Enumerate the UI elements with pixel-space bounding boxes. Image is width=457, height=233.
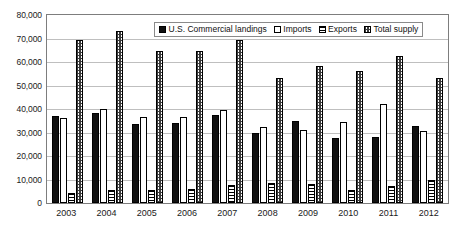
bar-2005-total-supply xyxy=(156,51,163,203)
x-axis-tick-label-2008: 2008 xyxy=(247,205,287,227)
bar-2011-imports xyxy=(380,104,387,203)
bar-2009-u-s-commercial-landings xyxy=(292,121,299,203)
bar-group-2005 xyxy=(127,15,167,203)
bar-2006-u-s-commercial-landings xyxy=(172,123,179,203)
y-axis-tick-label: 20,000 xyxy=(17,151,42,161)
legend-item-label: Total supply xyxy=(373,25,418,34)
bar-2006-imports xyxy=(180,117,187,203)
bar-2003-total-supply xyxy=(76,40,83,203)
bar-group-2011 xyxy=(368,15,408,203)
legend-item-u-s-commercial-landings[interactable]: U.S. Commercial landings xyxy=(159,25,267,34)
bar-group-2004 xyxy=(87,15,127,203)
bar-2008-total-supply xyxy=(276,78,283,203)
bars-layer xyxy=(47,15,448,203)
bar-2004-exports xyxy=(108,190,115,203)
bar-2003-imports xyxy=(60,118,67,203)
bar-2010-exports xyxy=(348,190,355,203)
x-axis-tick-label-2006: 2006 xyxy=(167,205,207,227)
bar-2007-total-supply xyxy=(236,40,243,203)
bar-2008-imports xyxy=(260,127,267,203)
bar-group-2009 xyxy=(288,15,328,203)
bar-2007-imports xyxy=(220,110,227,203)
bar-2006-total-supply xyxy=(196,51,203,203)
bar-2009-total-supply xyxy=(316,66,323,203)
checkerboard-swatch xyxy=(364,26,371,33)
bar-2004-imports xyxy=(100,109,107,203)
bar-2012-total-supply xyxy=(436,78,443,203)
bar-2012-u-s-commercial-landings xyxy=(412,126,419,203)
bar-2011-exports xyxy=(388,186,395,203)
bar-2003-exports xyxy=(68,193,75,203)
bar-2007-u-s-commercial-landings xyxy=(212,115,219,203)
bar-2005-imports xyxy=(140,117,147,203)
bar-chart: 80,00070,00060,00050,00040,00030,00020,0… xyxy=(0,0,457,233)
bar-2011-u-s-commercial-landings xyxy=(372,137,379,203)
x-axis-tick-label-2009: 2009 xyxy=(288,205,328,227)
legend-item-exports[interactable]: Exports xyxy=(319,25,357,34)
x-axis-tick-label-2003: 2003 xyxy=(46,205,86,227)
bar-2005-exports xyxy=(148,190,155,203)
bar-2010-total-supply xyxy=(356,71,363,203)
bar-group-2006 xyxy=(167,15,207,203)
y-axis-tick-label: 70,000 xyxy=(17,34,42,44)
x-axis: 2003200420052006200720082009201020112012 xyxy=(46,205,449,227)
bar-2004-u-s-commercial-landings xyxy=(92,113,99,203)
x-axis-tick-label-2011: 2011 xyxy=(368,205,408,227)
legend-item-total-supply[interactable]: Total supply xyxy=(364,25,418,34)
solid-black-swatch xyxy=(159,26,166,33)
bar-group-2003 xyxy=(47,15,87,203)
plot-area xyxy=(46,14,449,204)
chart-legend: U.S. Commercial landingsImportsExportsTo… xyxy=(154,22,423,37)
legend-item-imports[interactable]: Imports xyxy=(274,25,312,34)
bar-2005-u-s-commercial-landings xyxy=(132,124,139,203)
legend-item-label: Imports xyxy=(283,25,311,34)
bar-2007-exports xyxy=(228,185,235,203)
x-axis-tick-label-2007: 2007 xyxy=(207,205,247,227)
y-axis-tick-label: 50,000 xyxy=(17,81,42,91)
bar-2012-exports xyxy=(428,180,435,203)
bar-2008-u-s-commercial-landings xyxy=(252,133,259,203)
x-axis-tick-label-2004: 2004 xyxy=(86,205,126,227)
y-axis-tick-label: 10,000 xyxy=(17,175,42,185)
y-axis-tick-label: 40,000 xyxy=(17,104,42,114)
bar-group-2012 xyxy=(408,15,448,203)
bar-group-2007 xyxy=(207,15,247,203)
y-axis: 80,00070,00060,00050,00040,00030,00020,0… xyxy=(0,14,46,204)
white-empty-swatch xyxy=(274,26,281,33)
bar-2006-exports xyxy=(188,189,195,203)
bar-2003-u-s-commercial-landings xyxy=(52,116,59,203)
bar-2012-imports xyxy=(420,131,427,203)
bar-group-2010 xyxy=(328,15,368,203)
bar-2010-imports xyxy=(340,122,347,203)
y-axis-tick-label: 30,000 xyxy=(17,128,42,138)
bar-2009-imports xyxy=(300,130,307,203)
legend-item-label: Exports xyxy=(328,25,357,34)
horizontal-lines-swatch xyxy=(319,26,326,33)
bar-2009-exports xyxy=(308,184,315,203)
bar-2010-u-s-commercial-landings xyxy=(332,138,339,203)
x-axis-tick-label-2005: 2005 xyxy=(127,205,167,227)
x-axis-tick-label-2012: 2012 xyxy=(409,205,449,227)
legend-item-label: U.S. Commercial landings xyxy=(169,25,267,34)
y-axis-tick-label: 80,000 xyxy=(17,10,42,20)
bar-2008-exports xyxy=(268,183,275,203)
bar-group-2008 xyxy=(247,15,287,203)
bar-2011-total-supply xyxy=(396,56,403,203)
bar-2004-total-supply xyxy=(116,31,123,203)
x-axis-tick-label-2010: 2010 xyxy=(328,205,368,227)
y-axis-tick-label: 60,000 xyxy=(17,57,42,67)
y-axis-tick-label: 0 xyxy=(37,198,42,208)
